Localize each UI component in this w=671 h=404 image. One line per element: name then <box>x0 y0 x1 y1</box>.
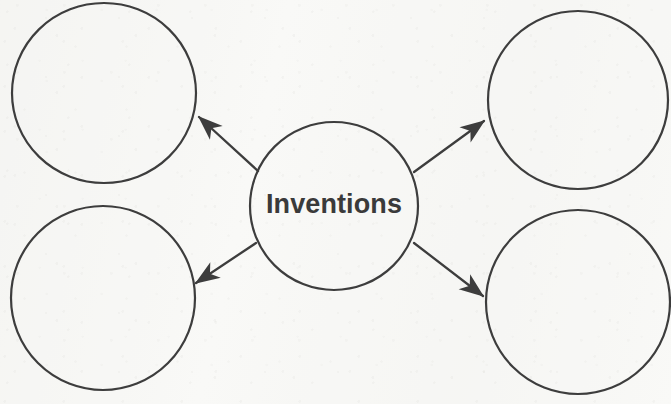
arrow-to-bottom-right <box>414 243 483 296</box>
bottom-left-blank-node[interactable] <box>11 206 195 390</box>
worksheet-canvas: Inventions <box>0 0 671 404</box>
arrow-to-top-right <box>414 121 484 172</box>
center-node-label: Inventions <box>266 189 402 219</box>
bottom-right-blank-node[interactable] <box>486 210 670 394</box>
arrow-to-bottom-left <box>196 243 256 283</box>
top-right-blank-node[interactable] <box>488 11 668 189</box>
concept-map-diagram: Inventions <box>0 0 671 404</box>
center-node[interactable]: Inventions <box>250 122 418 290</box>
top-left-blank-node[interactable] <box>12 3 196 183</box>
arrow-to-top-left <box>199 117 258 171</box>
